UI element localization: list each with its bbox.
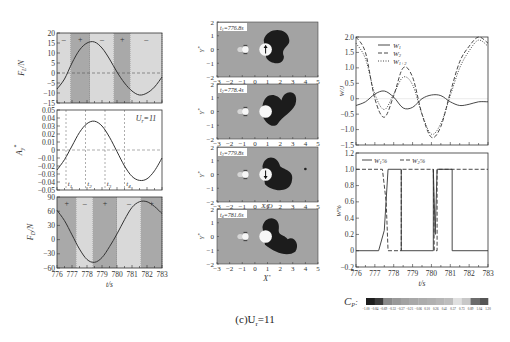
caption-text: (c)U	[235, 313, 255, 325]
x-tick-label: 780	[426, 269, 438, 278]
y-tick-label: 0	[51, 69, 55, 78]
colorbar-segment	[453, 298, 462, 305]
upstream-cylinder	[242, 108, 248, 114]
region-sign-label: +	[78, 35, 83, 44]
y-tick-label: 0.2	[345, 230, 355, 239]
x-tick-label: 782	[464, 269, 476, 278]
energy-curve-w1	[356, 91, 488, 109]
colorbar-tick-label: −1.00	[362, 307, 370, 311]
legend-label-subscript: 1	[399, 45, 401, 50]
y-tick-label: −10	[43, 89, 55, 98]
upstream-cylinder	[242, 233, 248, 239]
annotation-value: =11	[144, 114, 157, 123]
colorbar-segment	[401, 298, 410, 305]
colorbar-tick-label: 0.41	[442, 307, 448, 311]
y-tick-label: 2	[211, 81, 215, 89]
x-tick-label: 781	[126, 270, 138, 279]
figure-canvas: –+–+–20151050−5−10−15FL/Nt1t2t3t40.050.0…	[0, 0, 510, 342]
y-tick-label: −30	[43, 249, 55, 258]
colorbar-tick-label: 0.10	[424, 307, 430, 311]
y-axis-label: FL/N	[17, 60, 27, 77]
colorbar-tick-label: −0.69	[380, 307, 388, 311]
legend-label-percent: %	[420, 157, 426, 164]
caption-suffix: =11	[258, 313, 275, 325]
legend-label-subscript: 1+2	[399, 61, 407, 66]
time-label: t4=781.6s	[220, 212, 244, 219]
displacement-chart: t1t2t3t40.050.040.030.020.010−0.01−0.02−…	[13, 106, 162, 195]
y-tick-label: 0	[350, 246, 354, 255]
y-axis-label-superscript: *	[197, 108, 202, 111]
x-tick-label: 2	[278, 265, 282, 273]
upstream-cylinder	[242, 46, 248, 52]
y-tick-label: −1	[207, 185, 215, 193]
region-sign-label: +	[64, 199, 69, 208]
x-tick-label: 778	[81, 270, 93, 279]
percentage-curve-w1-pct	[356, 169, 488, 250]
time-marker-label: t4	[126, 180, 131, 189]
colorbar-tick-label: 1.20	[485, 307, 491, 311]
colorbar-tick-label: 1.04	[476, 307, 482, 311]
y-tick-label: 2	[211, 144, 215, 152]
x-tick-label: 779	[96, 270, 108, 279]
time-marker-label: t3	[107, 180, 112, 189]
flow-field-frame: t4=781.6s210−1−2Y*−3−2−1012345	[197, 206, 320, 274]
x-tick-label: 777	[66, 270, 78, 279]
y-tick-label: 1.0	[345, 63, 355, 72]
colorbar-tick-label: 0.73	[459, 307, 465, 311]
time-label: t3=779.8s	[220, 150, 244, 157]
energy-transfer-chart: 2.01.51.00.50−0.5−1.0−1.5W1W2W1+2W/J	[338, 33, 488, 150]
x-tick-label: −2	[226, 265, 234, 273]
x-tick-label: 776	[51, 270, 63, 279]
y-tick-label: 30	[48, 221, 56, 230]
energy-curve-w1-plus-2	[356, 40, 488, 134]
time-marker-subscript: 2	[89, 184, 92, 189]
y-axis-label-superscript: *	[197, 171, 202, 174]
main-cylinder	[259, 230, 272, 243]
colorbar-tick-label: 0.89	[468, 307, 474, 311]
colorbar-tick-label: −0.84	[371, 307, 379, 311]
time-marker-label: t2	[87, 180, 92, 189]
mid-x-axis-label: X/D	[260, 202, 272, 210]
legend-label-percent: %	[382, 157, 388, 164]
flow-field-panels: t1=776.8s210−1−2Y*−3−2−1012345t2=778.4s2…	[197, 19, 320, 284]
x-tick-label: 1	[266, 265, 270, 273]
x-tick-label: −1	[239, 265, 247, 273]
time-label-value: =776.8s	[224, 25, 245, 31]
colorbar-segment	[444, 298, 453, 305]
y-axis-label-subscript: y	[19, 147, 25, 151]
y-tick-label: 1.2	[345, 149, 355, 158]
y-tick-label: −0.5	[340, 110, 354, 119]
y-axis-label: FD/N	[26, 223, 36, 241]
colorbar-segment	[479, 298, 488, 305]
y-axis-label-rest: /N	[17, 60, 26, 69]
flow-field-frame: t1=776.8s210−1−2Y*−3−2−1012345	[197, 19, 320, 87]
time-label-value: =779.8s	[224, 150, 245, 156]
y-tick-label: −1	[207, 60, 215, 68]
time-marker-subscript: 4	[128, 184, 131, 189]
x-tick-label: 0	[253, 265, 257, 273]
colorbar-tick-label: 0.26	[433, 307, 439, 311]
x-tick-label: 5	[316, 265, 320, 273]
colorbar-tick-label: −0.37	[397, 307, 405, 311]
y-tick-label: 1.0	[345, 165, 355, 174]
y-tick-label: 15	[48, 39, 56, 48]
y-tick-label: 0.4	[345, 214, 355, 223]
y-tick-label: 2	[211, 19, 215, 27]
upstream-cylinder	[242, 171, 248, 177]
y-tick-label: 0	[211, 108, 215, 116]
y-axis-label-rest: /N	[26, 223, 35, 232]
x-axis-label-superscript: *	[268, 274, 271, 279]
shed-vortex	[304, 168, 307, 171]
colorbar-tick-label: 0.57	[450, 307, 456, 311]
x-tick-label: −3	[213, 265, 221, 273]
y-tick-label: 2	[211, 206, 215, 214]
x-axis-label: X*	[262, 274, 271, 283]
plot-frame	[356, 37, 488, 145]
colorbar-segment	[410, 298, 419, 305]
time-label-value: =781.6s	[224, 212, 245, 218]
y-axis-label: W/J	[338, 85, 346, 97]
y-tick-label: −1	[207, 247, 215, 255]
colorbar-label: CP:	[344, 295, 358, 308]
y-tick-label: 0	[51, 235, 55, 244]
colorbar-tick-label: −0.53	[388, 307, 396, 311]
